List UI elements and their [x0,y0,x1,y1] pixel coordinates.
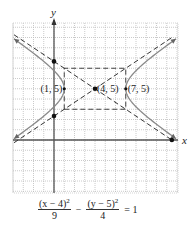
point-marker [52,114,57,119]
point-marker [170,138,175,143]
y-axis-arrow-icon [52,18,57,25]
point-marker [52,59,57,64]
hyperbola-chart: (1, 5)(4, 5)(7, 5) x y [0,0,195,200]
equation-term2: (y − 5)2 4 [86,198,119,221]
y-axis-label: y [50,6,56,18]
point-label: (4, 5) [97,83,119,95]
axes [13,18,178,193]
equation-term1: (x − 4)2 9 [38,198,71,221]
curve-arrow-icon [170,39,176,44]
term1-denominator: 9 [52,210,57,221]
point-label: (1, 5) [41,83,63,95]
term2-exponent: 2 [115,197,119,205]
term2-numerator: (y − 5) [87,198,114,209]
term2-denominator: 4 [100,210,105,221]
equation: (x − 4)2 9 − (y − 5)2 4 = 1 [38,198,137,221]
point-marker [63,87,66,90]
x-axis-label: x [181,134,187,146]
grid-border [13,23,178,193]
term1-exponent: 2 [66,197,70,205]
equation-operator: − [76,204,82,215]
equation-rhs: = 1 [124,204,137,215]
curve-arrow-icon [14,134,20,139]
grid [13,23,178,193]
term1-numerator: (x − 4) [39,198,66,209]
curve-arrow-icon [14,39,20,44]
point-label: (7, 5) [128,83,150,95]
